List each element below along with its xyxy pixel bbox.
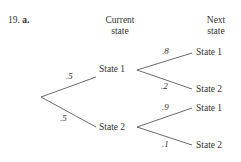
- next-state-s1-s1: State 1: [196, 47, 222, 58]
- branch-prob-root-state2: .5: [60, 113, 67, 123]
- branch-prob-s1-s2: .2: [161, 81, 168, 91]
- tree-lines: [0, 0, 241, 162]
- next-state-s1-s2: State 2: [196, 84, 222, 95]
- branch-prob-s2-s1: .9: [162, 102, 169, 112]
- next-state-s2-s2: State 2: [196, 140, 222, 151]
- next-state-s2-s1: State 1: [196, 103, 222, 114]
- current-state1: State 1: [99, 64, 125, 75]
- branch-prob-root-state1: .5: [66, 71, 73, 81]
- branch-prob-s2-s2: .1: [162, 139, 169, 149]
- current-state2: State 2: [99, 122, 125, 133]
- branch-prob-s1-s1: .8: [162, 46, 169, 56]
